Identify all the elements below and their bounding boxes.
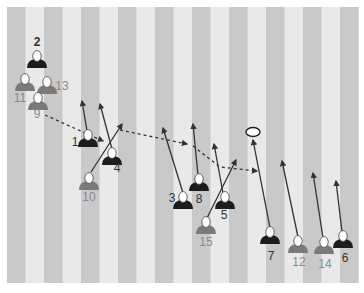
player-number-label: 13 (55, 79, 69, 93)
player-head-icon (34, 93, 42, 104)
player-number-label: 8 (196, 192, 203, 206)
player-head-icon (85, 173, 93, 184)
player-number-label: 5 (221, 208, 228, 222)
player-number-label: 7 (268, 249, 275, 263)
player-head-icon (33, 51, 41, 62)
player-head-icon (195, 174, 203, 185)
player-head-icon (339, 231, 347, 242)
player-head-icon (320, 237, 328, 248)
field-stripe (118, 7, 137, 283)
player-head-icon (21, 74, 29, 85)
player-head-icon (294, 236, 302, 247)
player-head-icon (202, 217, 210, 228)
player-head-icon (84, 130, 92, 141)
player-head-icon (179, 192, 187, 203)
player-head-icon (221, 192, 229, 203)
player-head-icon (266, 227, 274, 238)
field-stripe (7, 7, 26, 283)
field-stripes (7, 7, 359, 283)
player-number-label: 12 (292, 255, 306, 269)
player-number-label: 1 (72, 135, 79, 149)
player-number-label: 6 (342, 251, 349, 265)
field-stripe (155, 7, 174, 283)
player-head-icon (108, 148, 116, 159)
player-number-label: 9 (34, 107, 41, 121)
ball-icon (246, 128, 260, 137)
player-number-label: 2 (34, 35, 41, 49)
player-number-label: 3 (169, 191, 176, 205)
field-stripe (44, 7, 63, 283)
player-number-label: 4 (114, 161, 121, 175)
rugby-field: 211139141038515712146 (0, 0, 364, 293)
player-number-label: 15 (199, 235, 213, 249)
player-number-label: 10 (82, 190, 96, 204)
field-stripe (303, 7, 322, 283)
player-number-label: 11 (14, 91, 27, 105)
player-number-label: 14 (318, 257, 332, 271)
player-head-icon (43, 77, 51, 88)
field-stripe (229, 7, 248, 283)
